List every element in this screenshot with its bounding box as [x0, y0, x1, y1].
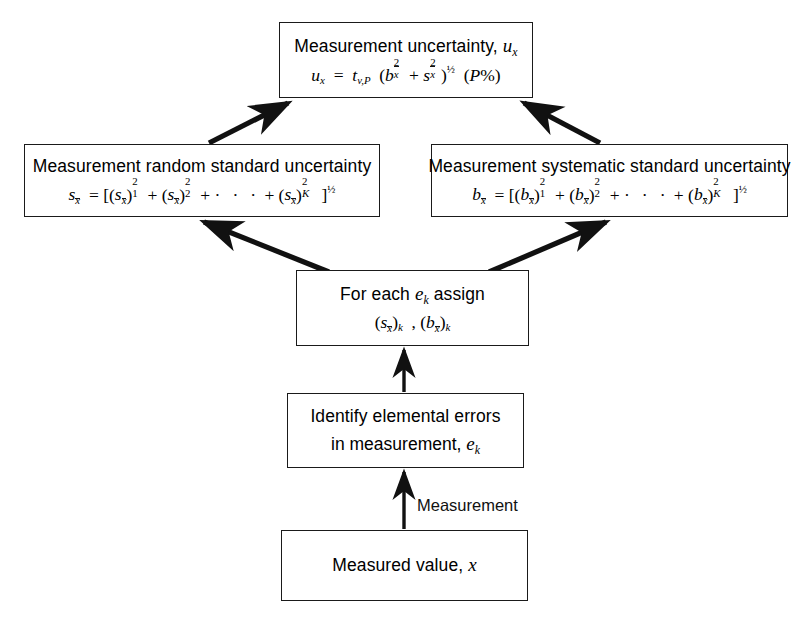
node-measured-value-line-1: Measured value, x [332, 553, 476, 577]
node-identify-elemental-errors-line-1: Identify elemental errors [310, 405, 500, 427]
node-systematic-standard-uncertainty-line-2: bx = [(bx)21 + (bx)22 + · · · + (bx)2K ]… [472, 183, 747, 206]
node-measured-value: Measured value, x [281, 530, 528, 601]
edge-systematic-to-uncertainty [524, 103, 600, 143]
node-random-standard-uncertainty: Measurement random standard uncertainty … [24, 144, 380, 217]
edge-assign-to-systematic [489, 222, 606, 272]
edge-random-to-uncertainty [209, 103, 288, 143]
node-systematic-standard-uncertainty-line-1: Measurement systematic standard uncertai… [428, 155, 790, 177]
node-measurement-uncertainty-line-2: ux = tv,P (b2x + s2x)½ (P%) [311, 63, 500, 86]
edge-assign-to-random [204, 222, 329, 272]
uncertainty-flow-diagram: Measurement uncertainty, ux ux = tv,P (b… [0, 0, 809, 625]
node-assign-uncertainties: For each ek assign (sx)k , (bx)k [296, 270, 529, 346]
node-systematic-standard-uncertainty: Measurement systematic standard uncertai… [431, 144, 788, 217]
node-random-standard-uncertainty-line-1: Measurement random standard uncertainty [33, 155, 372, 177]
node-assign-uncertainties-line-1: For each ek assign [340, 282, 485, 306]
node-measurement-uncertainty-line-1: Measurement uncertainty, ux [294, 34, 517, 58]
node-identify-elemental-errors: Identify elemental errors in measurement… [287, 393, 524, 468]
node-measurement-uncertainty: Measurement uncertainty, ux ux = tv,P (b… [279, 22, 533, 98]
edge-label-measurement: Measurement [417, 496, 518, 515]
node-random-standard-uncertainty-line-2: sx = [(sx)21 + (sx)22 + · · · + (sx)2K ]… [69, 183, 336, 206]
node-assign-uncertainties-line-2: (sx)k , (bx)k [375, 311, 451, 333]
node-identify-elemental-errors-line-2: in measurement, ek [331, 432, 480, 456]
